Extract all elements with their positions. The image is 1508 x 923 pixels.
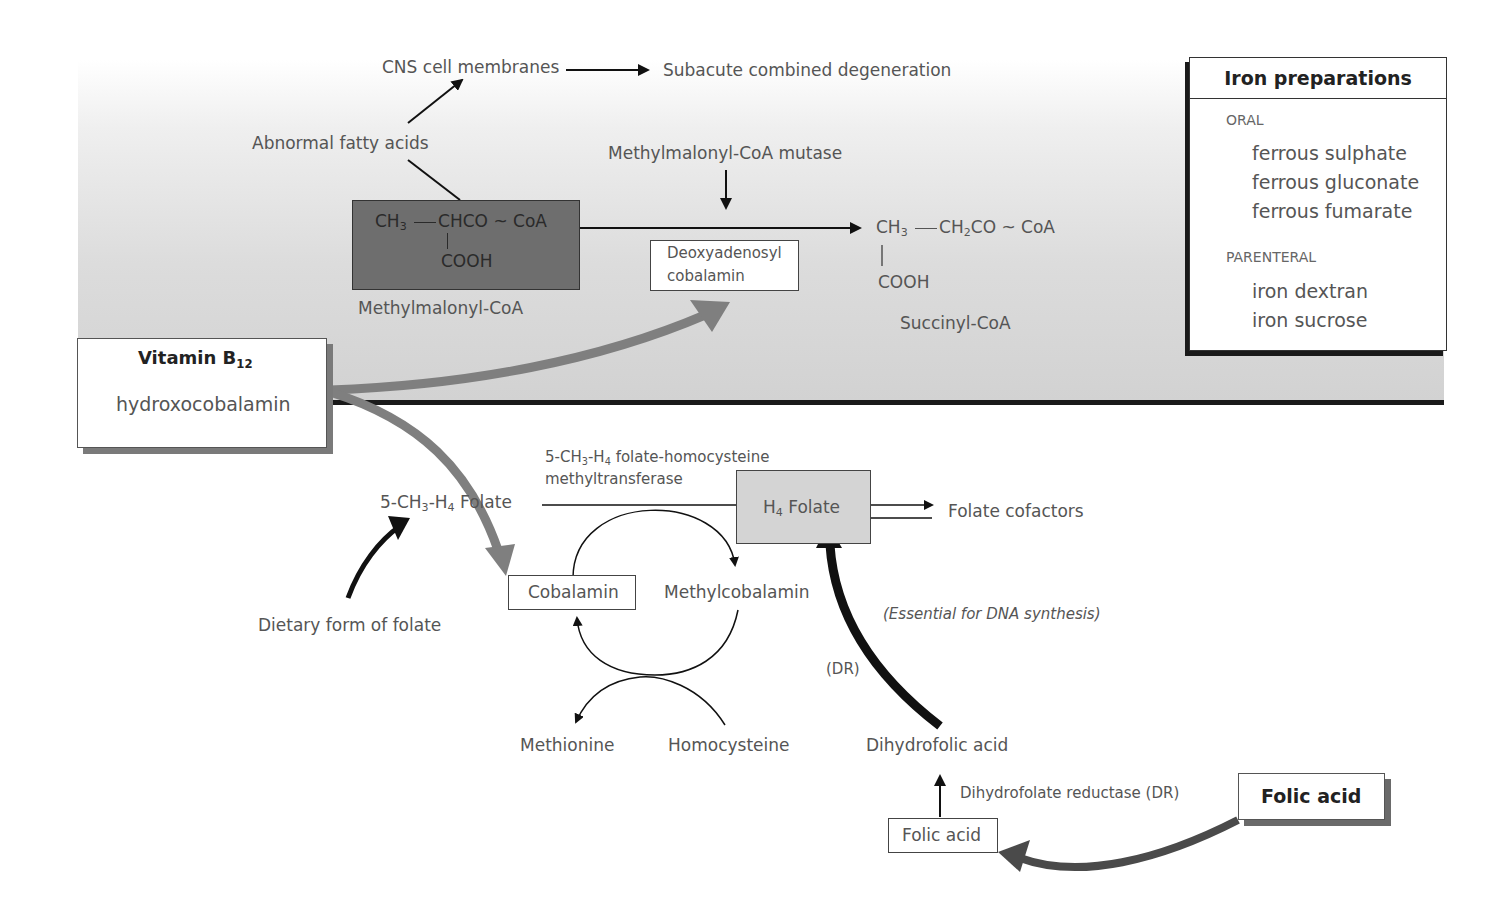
label-methionine: Methionine (520, 735, 614, 755)
vitamin-b12-box: Vitamin B12 hydroxocobalamin (77, 338, 327, 448)
deoxyadenosyl-cobalamin-box: Deoxyadenosyl cobalamin (650, 240, 799, 291)
succinyl-formula-top: CH3 CH2CO ~ CoA (876, 217, 1055, 237)
label-methylmalonyl-coa: Methylmalonyl-CoA (358, 298, 523, 318)
label-methyltransferase-line2: methyltransferase (545, 470, 683, 488)
iron-section-parenteral: PARENTERAL (1226, 249, 1316, 265)
vitamin-b12-subtitle: hydroxocobalamin (116, 393, 291, 415)
label-dihydrofolate-reductase: Dihydrofolate reductase (DR) (960, 784, 1179, 802)
label-essential-dna: (Essential for DNA synthesis) (883, 605, 1101, 623)
label-abnormal-fatty-acids: Abnormal fatty acids (252, 133, 429, 153)
methylmalonyl-formula-top: CH3 CHCO ~ CoA (375, 211, 547, 231)
succinyl-formula-cooh: COOH (878, 272, 929, 292)
iron-item: ferrous gluconate (1252, 171, 1419, 193)
vitamin-b12-title: Vitamin B12 (138, 347, 253, 368)
black-arrow-dhf-to-h4folate (830, 545, 940, 726)
label-homocysteine: Homocysteine (668, 735, 790, 755)
iron-item: ferrous sulphate (1252, 142, 1407, 164)
label-cns-membranes: CNS cell membranes (382, 57, 559, 77)
label-dr: (DR) (826, 660, 860, 678)
label-5-methyl-folate: 5-CH3-H4 Folate (380, 492, 512, 512)
iron-preparations-title: Iron preparations (1190, 58, 1446, 99)
label-dihydrofolic-acid: Dihydrofolic acid (866, 735, 1008, 755)
label-methyltransferase-line1: 5-CH3-H4 folate-homocysteine (545, 448, 769, 466)
iron-preparations-box: Iron preparations ORAL ferrous sulphate … (1189, 57, 1447, 351)
black-arrow-dietary-to-methylfolate (348, 526, 400, 598)
label-subacute-degeneration: Subacute combined degeneration (663, 60, 951, 80)
arc-homocysteine-to-methionine (576, 677, 640, 722)
iron-section-oral: ORAL (1226, 112, 1264, 128)
cobalamin-box: Cobalamin (508, 575, 636, 610)
iron-item: ferrous fumarate (1252, 200, 1412, 222)
label-methylcobalamin: Methylcobalamin (664, 582, 810, 602)
h4-folate-box: H4 Folate (736, 470, 871, 544)
label-dietary-folate: Dietary form of folate (258, 615, 441, 635)
dark-arrow-folic-big-to-small (1020, 820, 1238, 867)
label-folate-cofactors: Folate cofactors (948, 501, 1084, 521)
label-succinyl-coa: Succinyl-CoA (900, 313, 1011, 333)
folic-acid-drug-box: Folic acid (1238, 773, 1385, 820)
arc-to-cobalamin (577, 618, 655, 675)
arc-cobalamin-to-methylcobalamin (573, 510, 735, 578)
grey-arrow-b12-to-cobalamin (330, 392, 498, 550)
iron-item: iron sucrose (1252, 309, 1367, 331)
iron-item: iron dextran (1252, 280, 1368, 302)
methylmalonyl-coa-box: CH3 CHCO ~ CoA COOH (352, 200, 580, 290)
methylmalonyl-formula-cooh: COOH (441, 251, 492, 271)
label-mutase: Methylmalonyl-CoA mutase (608, 143, 842, 163)
folic-acid-small-box: Folic acid (888, 818, 998, 853)
